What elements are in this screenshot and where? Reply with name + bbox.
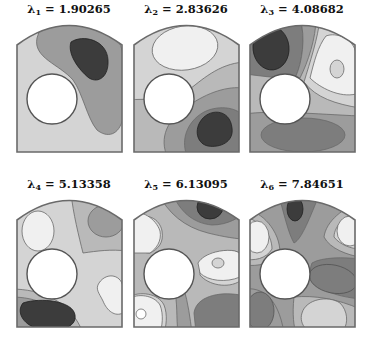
panel-lambda-5: λ5 = 6.13095: [128, 177, 244, 337]
contour-plot: [128, 18, 244, 158]
eigenvalue: 2.83626: [176, 2, 228, 16]
hole: [27, 74, 77, 124]
equals-sign: =: [158, 177, 176, 191]
contour-plot: [244, 18, 360, 158]
equals-sign: =: [274, 2, 292, 16]
panel-lambda-2: λ2 = 2.83626: [128, 2, 244, 162]
contour-plot: [11, 18, 127, 158]
panel-title: λ4 = 5.13358: [11, 177, 127, 191]
equals-sign: =: [41, 2, 59, 16]
eigenvalue: 6.13095: [176, 177, 228, 191]
panel-title: λ5 = 6.13095: [128, 177, 244, 191]
eigenmode-figure: λ1 = 1.90265 λ2 = 2.83626: [0, 0, 374, 347]
panel-lambda-4: λ4 = 5.13358: [11, 177, 127, 337]
eigenvalue: 7.84651: [292, 177, 344, 191]
contour-plot: [244, 193, 360, 333]
panel-title: λ2 = 2.83626: [128, 2, 244, 16]
panel-title: λ1 = 1.90265: [11, 2, 127, 16]
eigenvalue: 1.90265: [59, 2, 111, 16]
panel-lambda-6: λ6 = 7.84651: [244, 177, 360, 337]
contour-plot: [11, 193, 127, 333]
contour-plot: [128, 193, 244, 333]
eigenvalue: 5.13358: [59, 177, 111, 191]
panel-lambda-1: λ1 = 1.90265: [11, 2, 127, 162]
panel-title: λ3 = 4.08682: [244, 2, 360, 16]
hole: [260, 74, 310, 124]
hole: [144, 74, 194, 124]
panel-lambda-3: λ3 = 4.08682: [244, 2, 360, 162]
equals-sign: =: [41, 177, 59, 191]
eigenvalue: 4.08682: [292, 2, 344, 16]
panel-title: λ6 = 7.84651: [244, 177, 360, 191]
hole: [260, 249, 310, 299]
hole: [27, 249, 77, 299]
hole: [144, 249, 194, 299]
equals-sign: =: [158, 2, 176, 16]
equals-sign: =: [274, 177, 292, 191]
